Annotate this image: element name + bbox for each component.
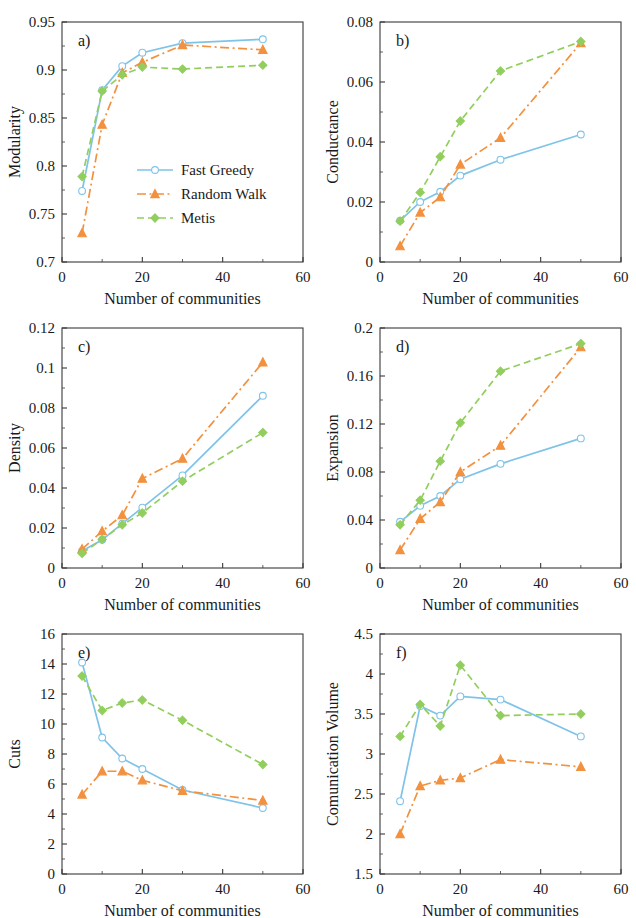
plot-frame [380, 22, 621, 262]
y-tick-label: 3 [366, 746, 374, 762]
panel-e: 02468101214160204060Number of communitie… [0, 612, 318, 918]
y-axis-title: Density [6, 423, 24, 473]
y-tick-label: 0.04 [347, 512, 374, 528]
data-point-marker [139, 49, 146, 56]
x-axis-title: Number of communities [422, 290, 578, 306]
y-axis: 00.020.040.060.080.10.12 [29, 320, 67, 576]
x-tick-label: 40 [215, 269, 230, 285]
y-tick-label: 0.08 [347, 464, 373, 480]
data-point-marker [259, 392, 266, 399]
x-tick-label: 0 [376, 881, 384, 897]
panel-e-svg: 02468101214160204060Number of communitie… [0, 612, 318, 918]
y-tick-label: 0 [366, 254, 374, 270]
panel-b-svg: 00.020.040.060.080204060Number of commun… [318, 0, 636, 306]
y-tick-label: 14 [40, 656, 56, 672]
y-tick-label: 0.02 [29, 520, 55, 536]
data-point-marker [79, 659, 86, 666]
data-point-marker [577, 131, 584, 138]
legend-label-random_walk: Random Walk [181, 186, 267, 202]
x-tick-label: 0 [376, 269, 384, 285]
y-axis-title: Conductance [324, 100, 341, 184]
y-tick-label: 2 [48, 836, 56, 852]
y-axis-title: Modularity [6, 106, 24, 178]
x-tick-label: 20 [453, 881, 468, 897]
y-axis: 00.020.040.060.08 [347, 14, 385, 270]
panel-letter: a) [78, 32, 90, 50]
panel-d-svg: 00.040.080.120.160.20204060Number of com… [318, 306, 636, 612]
x-tick-label: 0 [376, 575, 384, 591]
data-point-marker [497, 696, 504, 703]
data-point-marker [99, 734, 106, 741]
x-tick-label: 20 [135, 269, 150, 285]
y-tick-label: 2.5 [354, 786, 373, 802]
data-point-marker [417, 199, 424, 206]
x-tick-label: 20 [135, 575, 150, 591]
x-tick-label: 40 [533, 575, 548, 591]
x-axis-title: Number of communities [104, 290, 260, 306]
y-tick-label: 0.06 [347, 74, 374, 90]
y-tick-label: 10 [40, 716, 55, 732]
panel-letter: b) [396, 32, 409, 50]
y-tick-label: 16 [40, 626, 56, 642]
y-axis: 0.70.750.80.850.90.95 [29, 14, 67, 270]
panel-letter: d) [396, 338, 409, 356]
y-axis: 00.040.080.120.160.2 [347, 320, 385, 576]
data-point-marker [139, 766, 146, 773]
panel-a-svg: 0.70.750.80.850.90.950204060Number of co… [0, 0, 318, 306]
x-tick-label: 20 [135, 881, 150, 897]
y-tick-label: 3.5 [354, 706, 373, 722]
y-tick-label: 0.16 [347, 368, 374, 384]
x-axis-title: Number of communities [104, 596, 260, 612]
data-point-marker [457, 172, 464, 179]
y-tick-label: 0 [48, 866, 56, 882]
data-point-marker [577, 733, 584, 740]
data-point-marker [79, 188, 86, 195]
data-point-marker [397, 798, 404, 805]
y-tick-label: 0.04 [347, 134, 374, 150]
x-axis-title: Number of communities [422, 596, 578, 612]
x-axis-title: Number of communities [104, 902, 260, 918]
panel-b: 00.020.040.060.080204060Number of commun… [318, 0, 636, 306]
x-tick-label: 20 [453, 575, 468, 591]
legend-label-metis: Metis [181, 210, 215, 226]
y-tick-label: 0.9 [36, 62, 55, 78]
panel-a: 0.70.750.80.850.90.950204060Number of co… [0, 0, 318, 306]
data-point-marker [497, 460, 504, 467]
panel-f: 1.522.533.544.50204060Number of communit… [318, 612, 636, 918]
y-tick-label: 0.1 [36, 360, 55, 376]
panel-f-svg: 1.522.533.544.50204060Number of communit… [318, 612, 636, 918]
legend-label-fast_greedy: Fast Greedy [181, 162, 254, 178]
x-tick-label: 0 [58, 269, 66, 285]
y-tick-label: 0 [366, 560, 374, 576]
plot-frame [62, 328, 303, 568]
figure-root: 0.70.750.80.850.90.950204060Number of co… [0, 0, 636, 918]
y-tick-label: 0.12 [29, 320, 55, 336]
y-tick-label: 0.75 [29, 206, 55, 222]
x-tick-label: 60 [296, 575, 311, 591]
x-tick-label: 40 [533, 881, 548, 897]
x-tick-label: 60 [614, 881, 629, 897]
y-tick-label: 0.02 [347, 194, 373, 210]
x-tick-label: 40 [533, 269, 548, 285]
y-tick-label: 0 [48, 560, 56, 576]
data-point-marker [437, 712, 444, 719]
x-tick-label: 60 [614, 575, 629, 591]
y-tick-label: 4 [366, 666, 374, 682]
panel-letter: c) [78, 338, 90, 356]
x-tick-label: 60 [614, 269, 629, 285]
plot-frame [62, 634, 303, 874]
y-tick-label: 0.8 [36, 158, 55, 174]
data-point-marker [259, 36, 266, 43]
x-tick-label: 40 [215, 881, 230, 897]
y-axis: 0246810121416 [40, 626, 67, 882]
y-tick-label: 0.95 [29, 14, 55, 30]
y-axis-title: Comunication Volume [324, 682, 341, 826]
y-tick-label: 6 [48, 776, 56, 792]
y-axis-title: Expansion [324, 414, 342, 482]
y-tick-label: 4.5 [354, 626, 373, 642]
y-tick-label: 0.08 [347, 14, 373, 30]
x-tick-label: 20 [453, 269, 468, 285]
panel-c: 00.020.040.060.080.10.120204060Number of… [0, 306, 318, 612]
y-tick-label: 0.06 [29, 440, 56, 456]
y-tick-label: 0.08 [29, 400, 55, 416]
